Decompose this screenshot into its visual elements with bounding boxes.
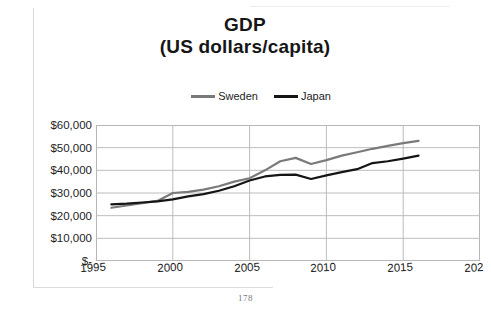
legend-swatch-sweden xyxy=(191,95,215,98)
x-axis-tick-labels: 19952000200520102015202 xyxy=(0,262,491,286)
legend-item-sweden[interactable]: Sweden xyxy=(191,90,258,102)
y-tick-label: $40,000 xyxy=(10,164,92,176)
y-tick-label: $60,000 xyxy=(10,119,92,131)
y-tick-label: $20,000 xyxy=(10,210,92,222)
x-tick-label: 2015 xyxy=(387,261,413,275)
chart-legend: SwedenJapan xyxy=(96,90,426,102)
plot-area xyxy=(96,125,480,261)
legend-item-japan[interactable]: Japan xyxy=(274,90,331,102)
y-axis-tick-labels: $60,000$50,000$40,000$30,000$20,000$10,0… xyxy=(10,118,92,268)
x-tick-label: 2010 xyxy=(310,261,336,275)
y-tick-label: $50,000 xyxy=(10,142,92,154)
legend-label-sweden: Sweden xyxy=(218,90,258,102)
chart-title: GDP xyxy=(100,14,390,35)
legend-label-japan: Japan xyxy=(301,90,331,102)
x-tick-label: 1995 xyxy=(80,261,106,275)
page-number: 178 xyxy=(0,293,491,303)
data-series-lines xyxy=(96,125,480,261)
series-line-japan xyxy=(111,156,418,205)
legend-swatch-japan xyxy=(274,95,298,98)
x-tick-label: 202 xyxy=(464,261,484,275)
chart-subtitle: (US dollars/capita) xyxy=(80,36,410,57)
y-tick-label: $10,000 xyxy=(10,232,92,244)
x-tick-label: 2005 xyxy=(234,261,260,275)
series-line-sweden xyxy=(111,141,418,208)
gdp-line-chart: GDP (US dollars/capita) SwedenJapan $60,… xyxy=(0,0,491,292)
x-tick-label: 2000 xyxy=(157,261,183,275)
y-tick-label: $30,000 xyxy=(10,187,92,199)
